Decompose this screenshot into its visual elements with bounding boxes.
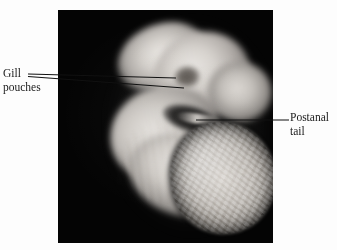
gill-pouches-label-line1: Gill [3, 67, 41, 81]
embryo-photograph [58, 10, 273, 243]
embryo-figure: Gill pouches Postanal tail [0, 0, 337, 250]
postanal-tail-label-line2: tail [290, 125, 329, 139]
postanal-tail-label-line1: Postanal [290, 111, 329, 125]
gill-pouches-label-line2: pouches [3, 81, 41, 95]
embryo-specimen [58, 10, 273, 243]
gill-pouches-label: Gill pouches [3, 67, 41, 94]
postanal-tail-label: Postanal tail [290, 111, 329, 138]
